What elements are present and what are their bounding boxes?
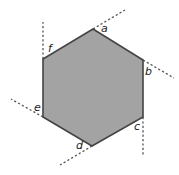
angle-label-c: c — [134, 120, 140, 133]
angle-label-a: a — [101, 22, 108, 35]
hexagon-diagram: abcdef — [0, 0, 179, 175]
diagram-canvas: abcdef — [0, 0, 179, 175]
angle-label-d: d — [76, 139, 84, 152]
regular-hexagon — [43, 29, 143, 146]
extension-line-a — [93, 10, 125, 29]
angle-label-b: b — [145, 65, 152, 78]
angle-label-e: e — [34, 101, 41, 114]
